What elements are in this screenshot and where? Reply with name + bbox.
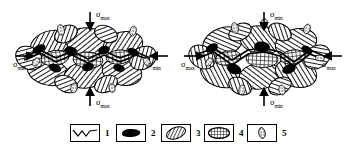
stress-label-right-left-diagram: σmin [148, 60, 161, 72]
zigzag-line-icon [71, 125, 99, 141]
legend-number-2: 2 [151, 124, 156, 142]
legend-swatch-2 [116, 124, 146, 142]
stress-label-top-left-diagram: σmax [96, 10, 110, 22]
legend-item-3: 3 [161, 122, 201, 144]
diagram-left: σmax σmax σmin σmin [0, 0, 176, 118]
stress-label-left-left-diagram: σmin [13, 60, 26, 72]
legend-swatch-5 [247, 124, 277, 142]
grain-cluster-left [11, 22, 160, 97]
solid-black-blob-icon [117, 125, 145, 141]
legend-swatch-4 [204, 124, 234, 142]
stress-label-right-right-diagram: σmax [322, 60, 336, 72]
stippled-sliver-icon [248, 125, 276, 141]
legend: 1 2 3 4 [70, 122, 285, 148]
legend-number-1: 1 [105, 124, 110, 142]
stress-label-left-right-diagram: σmax [181, 60, 195, 72]
legend-item-5: 5 [247, 122, 287, 144]
diagonal-hatch-blob-icon [162, 125, 190, 141]
cross-hatch-ellipse-icon [205, 125, 233, 141]
legend-swatch-1 [70, 124, 100, 142]
legend-number-4: 4 [239, 124, 244, 142]
diagram-right: σmin σmin σmax σmax [176, 0, 348, 118]
stress-label-bottom-right-diagram: σmin [270, 98, 283, 110]
legend-item-4: 4 [204, 122, 244, 144]
figure-canvas: σmax σmax σmin σmin [0, 0, 348, 154]
grain-cluster-right [184, 18, 335, 98]
legend-number-3: 3 [196, 124, 201, 142]
stress-label-bottom-left-diagram: σmax [96, 98, 110, 110]
legend-swatch-3 [161, 124, 191, 142]
stress-label-top-right-diagram: σmin [270, 10, 283, 22]
legend-number-5: 5 [282, 124, 287, 142]
legend-item-2: 2 [116, 122, 156, 144]
legend-item-1: 1 [70, 122, 110, 144]
